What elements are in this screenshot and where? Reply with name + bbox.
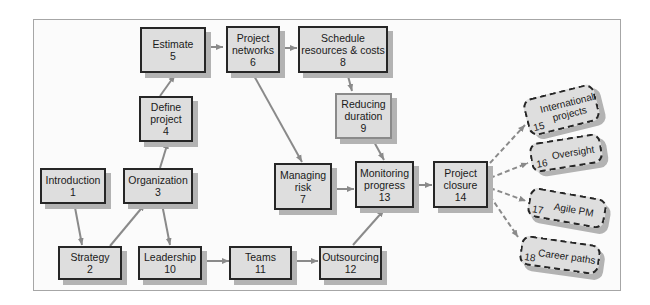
node-label-2: progress	[364, 179, 405, 191]
arrow-1-2	[74, 202, 82, 245]
node-outsourcing[interactable]: Outsourcing 12	[319, 246, 382, 280]
node-introduction[interactable]: Introduction 1	[40, 168, 106, 204]
node-managing-risk[interactable]: Managing risk 7	[274, 163, 332, 210]
node-project-networks[interactable]: Project networks 6	[226, 26, 280, 73]
arrow-12-13	[353, 210, 384, 245]
node-number: 17	[531, 203, 544, 216]
arrow-14-16	[490, 163, 528, 178]
node-label: Agile PM	[553, 200, 594, 218]
node-strategy[interactable]: Strategy 2	[58, 246, 122, 280]
arrow-9-13	[373, 140, 384, 160]
node-number: 3	[155, 186, 161, 198]
node-project-closure[interactable]: Project closure 14	[433, 161, 488, 208]
node-label-2: closure	[444, 179, 478, 191]
node-monitoring-progress[interactable]: Monitoring progress 13	[355, 161, 414, 208]
node-label: Organization	[128, 174, 188, 186]
node-label: Reducing	[341, 98, 385, 110]
node-leadership[interactable]: Leadership 10	[138, 246, 202, 280]
node-label: Managing	[280, 169, 326, 181]
node-label: Monitoring	[360, 167, 409, 179]
arrow-14-15	[490, 125, 525, 163]
node-number: 6	[250, 56, 256, 68]
node-label-2: networks	[232, 44, 274, 56]
node-label: Estimate	[153, 38, 194, 50]
node-label: Strategy	[70, 251, 109, 263]
node-label-2: resources & costs	[301, 44, 384, 56]
node-label: Teams	[245, 251, 276, 263]
node-number: 2	[87, 263, 93, 275]
node-number: 9	[361, 122, 367, 134]
node-number: 11	[255, 263, 266, 275]
arrow-2-3	[110, 204, 145, 246]
node-number: 13	[379, 191, 391, 203]
node-label: Schedule	[321, 32, 365, 44]
node-label-2: risk	[295, 181, 311, 193]
node-label-2: project	[150, 113, 182, 125]
arrow-14-17	[490, 188, 526, 201]
node-number: 1	[70, 186, 76, 198]
node-number: 10	[164, 263, 176, 275]
node-label: Leadership	[144, 251, 196, 263]
node-number: 14	[455, 191, 467, 203]
node-teams[interactable]: Teams 11	[229, 246, 292, 280]
node-estimate[interactable]: Estimate 5	[140, 27, 206, 73]
node-number: 7	[300, 193, 306, 205]
node-organization[interactable]: Organization 3	[123, 168, 193, 204]
arrow-3-10	[162, 204, 170, 245]
node-label: Outsourcing	[322, 251, 379, 263]
arrow-8-9	[348, 76, 352, 91]
node-number: 18	[524, 251, 537, 263]
node-define-project[interactable]: Define project 4	[139, 96, 193, 142]
node-number: 12	[345, 263, 357, 275]
node-reducing-duration[interactable]: Reducing duration 9	[335, 93, 392, 139]
node-label: Define	[151, 101, 181, 113]
arrow-6-7	[253, 74, 302, 162]
node-number: 5	[170, 50, 176, 62]
arrow-3-4	[160, 142, 168, 168]
node-label-2: duration	[345, 110, 383, 122]
node-label: Project	[237, 32, 270, 44]
node-number: 16	[536, 157, 549, 170]
node-label: Oversight	[551, 143, 595, 161]
node-schedule-resources-costs[interactable]: Schedule resources & costs 8	[298, 26, 388, 73]
node-number: 8	[340, 56, 346, 68]
arrow-4-5	[160, 75, 175, 96]
node-number: 4	[163, 125, 169, 137]
node-label: Career paths	[538, 247, 597, 266]
node-label: Introduction	[46, 174, 101, 186]
node-label: Project	[444, 167, 477, 179]
node-number: 15	[532, 120, 545, 133]
arrow-14-18	[490, 196, 518, 237]
